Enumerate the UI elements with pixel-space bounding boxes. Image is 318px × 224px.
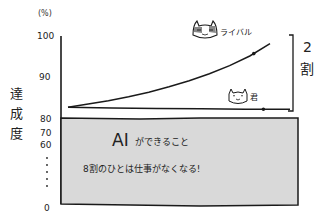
box-title-rest: ができること [135,136,189,147]
y-tick-label: 70 [40,128,52,138]
y-axis-label-char: 成 [10,106,23,121]
rival-cat-icon [193,21,217,38]
box-title-ai: AI [112,130,129,150]
y-tick-label: 60 [40,140,52,150]
data-point-you [262,107,266,111]
you-label: 君 [250,93,258,102]
y-axis-label-char: 度 [10,126,23,141]
y-axis-label-char: 達 [10,86,23,101]
y-axis-label: 達 成 度 [10,86,23,141]
y-tick-label: 90 [39,72,51,82]
box-subtitle: 8割のひとは仕事がなくなる! [83,163,200,174]
y-tick-label: 0 [44,203,50,213]
gap-label-number: 2 [303,39,312,55]
axis-break-dots [46,157,48,187]
y-tick-label: 100 [37,31,54,41]
y-tick-label: 80 [40,114,52,124]
chart: (%) 達 成 度 100 90 80 70 60 0 AI ができること 8割… [0,0,318,224]
you-cat-icon [229,89,248,104]
gap-bracket [288,35,293,111]
series-line-you [68,107,290,109]
data-point-rival [252,52,256,56]
rival-label: ライバル [220,28,252,37]
ai-region-box [61,118,298,206]
y-unit-label: (%) [38,9,52,18]
gap-label-unit: 割 [300,61,314,77]
